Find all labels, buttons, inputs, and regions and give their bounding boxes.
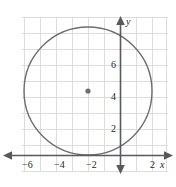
x-axis-left-arrow [3,151,12,160]
y-axis [116,16,125,174]
x-tick-label--4: −4 [54,160,65,170]
x-tick-label--6: −6 [22,160,33,170]
graph-figure: −6 −4 −2 2 2 4 6 y x [0,0,176,187]
y-tick-label-6: 6 [111,60,116,70]
circle-center-point [85,88,90,93]
x-axis-right-arrow [164,151,173,160]
y-axis-down-arrow [116,165,125,174]
x-tick-label-2: 2 [150,160,155,170]
x-axis-label: x [160,160,164,170]
y-tick-label-4: 4 [111,92,116,102]
x-tick-label--2: −2 [86,160,97,170]
grid-lines [22,17,168,172]
y-tick-label-2: 2 [111,124,116,134]
y-axis-label: y [126,17,130,27]
